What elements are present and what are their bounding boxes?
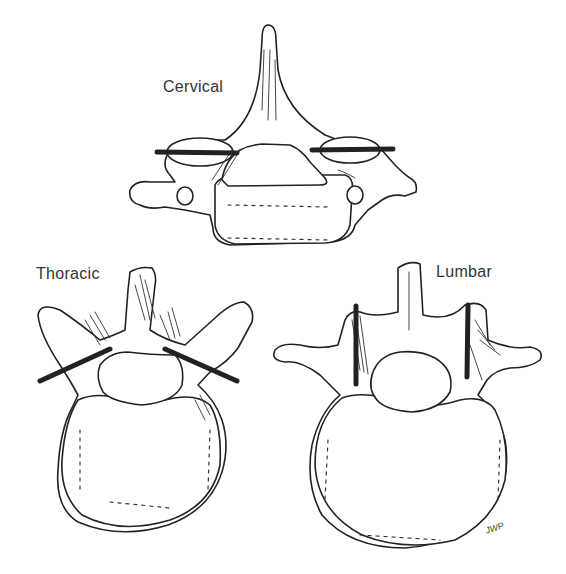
lumbar-facet-plane-right: [467, 305, 468, 377]
cervical-foramen-left: [177, 187, 193, 205]
lumbar-canal: [371, 352, 451, 412]
vertebrae-illustration: [0, 0, 566, 574]
lumbar-vertebra: [274, 263, 542, 548]
cervical-foramen-right: [347, 186, 363, 204]
lumbar-body: [315, 395, 506, 545]
thoracic-canal: [98, 352, 183, 405]
cervical-facet-plane-right: [312, 149, 393, 150]
cervical-facet-plane-left: [157, 152, 237, 153]
cervical-vertebra: [130, 25, 417, 245]
thoracic-vertebra: [38, 268, 253, 532]
